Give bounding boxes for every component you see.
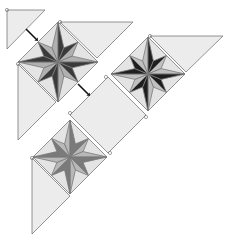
seam-marker-icon: [108, 151, 111, 154]
seam-marker-icon: [68, 111, 71, 114]
arrow-shaft: [26, 29, 36, 39]
seam-marker-icon: [144, 115, 147, 118]
join-arrow-corner: [26, 29, 38, 41]
arrow-shaft: [78, 84, 88, 94]
quilt-diagram-canvas: [0, 0, 228, 236]
quilt-assembly-diagram: [0, 0, 228, 236]
join-arrow-row: [78, 84, 90, 96]
seam-marker-icon: [104, 75, 107, 78]
